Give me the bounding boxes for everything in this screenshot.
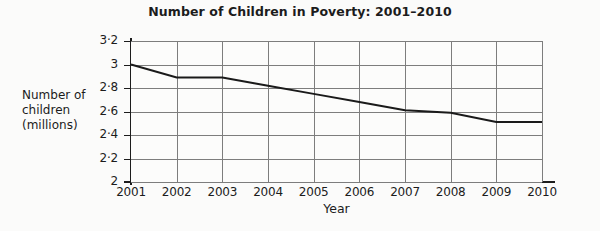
- x-axis-tick-label: 2001: [107, 185, 155, 199]
- x-axis-tick-label: 2008: [427, 185, 475, 199]
- x-axis-tick-label: 2009: [472, 185, 520, 199]
- x-axis-tick-label: 2010: [518, 185, 566, 199]
- x-axis-tick-label: 2005: [290, 185, 338, 199]
- plot-area: [131, 41, 542, 182]
- y-axis-tick-label: 3: [78, 57, 118, 71]
- y-axis-tick-label: 3·2: [78, 33, 118, 47]
- x-axis-tick-label: 2003: [198, 185, 246, 199]
- gridline-horizontal: [131, 182, 542, 183]
- chart-page: Number of Children in Poverty: 2001–2010…: [0, 0, 600, 231]
- poverty-line-path: [131, 65, 542, 123]
- data-series-line: [131, 41, 542, 182]
- x-axis-tick-label: 2006: [335, 185, 383, 199]
- y-axis-tick-label: 2·6: [78, 104, 118, 118]
- x-axis-tick-label: 2004: [244, 185, 292, 199]
- x-axis-tick-label: 2007: [381, 185, 429, 199]
- page-title: Number of Children in Poverty: 2001–2010: [0, 4, 600, 19]
- gridline-vertical: [542, 41, 543, 182]
- y-axis-tick-label: 2·2: [78, 151, 118, 165]
- x-axis-tick-label: 2002: [153, 185, 201, 199]
- y-axis-tick-label: 2·8: [78, 80, 118, 94]
- y-axis-tick-label: 2·4: [78, 127, 118, 141]
- x-axis-title: Year: [131, 201, 542, 216]
